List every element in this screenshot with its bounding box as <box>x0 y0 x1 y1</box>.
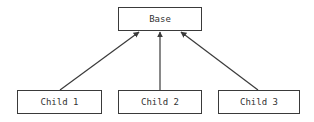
edge-child1-to-base <box>60 32 139 90</box>
node-child2: Child 2 <box>118 90 202 114</box>
node-child2-label: Child 2 <box>141 97 179 107</box>
node-child1-label: Child 1 <box>41 97 79 107</box>
edge-child3-to-base <box>181 32 258 90</box>
node-child3-label: Child 3 <box>240 97 278 107</box>
node-base-label: Base <box>149 14 171 24</box>
node-child1: Child 1 <box>17 90 102 114</box>
node-base: Base <box>118 7 202 31</box>
node-child3: Child 3 <box>218 90 300 114</box>
